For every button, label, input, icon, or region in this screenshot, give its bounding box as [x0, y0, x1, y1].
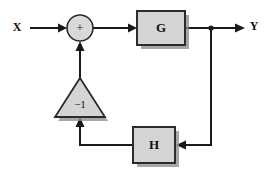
block-diagram-svg: + G H −1 X Y — [0, 0, 271, 174]
arrowhead-sum-to-forward-gain — [128, 24, 137, 33]
wire-forward-gain-to-output — [185, 24, 245, 33]
arrowhead-inverter-to-sum — [76, 41, 85, 51]
wire-sum-to-forward-gain — [93, 24, 137, 33]
wire-inverter-to-sum — [76, 41, 85, 78]
input-signal-label: X — [13, 20, 22, 34]
block-forward-gain[interactable]: G — [137, 11, 189, 49]
wire-input-to-sum — [30, 24, 67, 33]
block-feedback-gain[interactable]: H — [133, 127, 179, 167]
block-forward-gain-label: G — [156, 20, 166, 35]
summing-junction-plus-sign: + — [77, 21, 84, 35]
arrowhead-output-to-y — [235, 24, 245, 33]
block-inverting-gain[interactable]: −1 — [55, 78, 108, 121]
arrowhead-input-to-sum — [58, 24, 67, 33]
block-feedback-gain-label: H — [149, 137, 159, 152]
wire-feedback-gain-to-inverter — [76, 117, 134, 145]
block-diagram-canvas: + G H −1 X Y — [0, 0, 271, 174]
output-signal-label: Y — [250, 19, 259, 33]
block-inverting-gain-label: −1 — [74, 98, 86, 110]
summing-junction[interactable]: + — [67, 15, 93, 41]
